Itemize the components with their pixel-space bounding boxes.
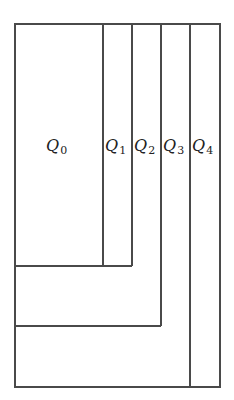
outer-frame: [15, 24, 220, 387]
nested-q-regions-diagram: Q0 Q1 Q2 Q3 Q4: [0, 0, 234, 400]
region-label-q3: Q3: [163, 136, 184, 157]
region-label-q1: Q1: [105, 136, 126, 157]
region-label-q4: Q4: [192, 136, 213, 157]
region-label-q0: Q0: [46, 136, 67, 157]
region-label-q2: Q2: [134, 136, 155, 157]
